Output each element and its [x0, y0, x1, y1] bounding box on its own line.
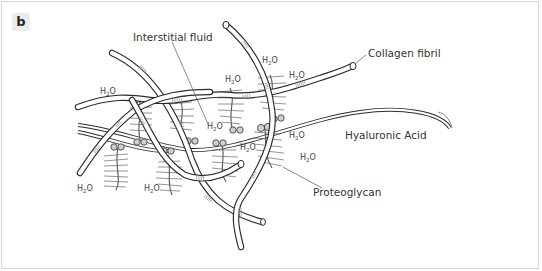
label-collagen-fibril: Collagen fibril: [368, 47, 441, 59]
proteoglycan-1: [104, 144, 128, 190]
h2o-label: H2O: [289, 71, 305, 81]
h2o-label: H2O: [289, 131, 305, 141]
label-interstitial-fluid: Interstitial fluid: [133, 31, 213, 43]
h2o-label: H2O: [262, 56, 278, 66]
h2o-label: H2O: [144, 184, 160, 194]
h2o-label: H2O: [300, 153, 316, 163]
h2o-label: H2O: [77, 184, 93, 194]
label-hyaluronic-acid: Hyaluronic Acid: [345, 129, 427, 141]
h2o-label: H2O: [240, 143, 256, 153]
h2o-label: H2O: [207, 122, 223, 132]
ecm-diagram: Interstitial fluid Collagen fibril Hyalu…: [0, 0, 542, 271]
label-proteoglycan: Proteoglycan: [313, 186, 381, 198]
h2o-label: H2O: [225, 75, 241, 85]
leader-lines: [172, 42, 452, 188]
h2o-label: H2O: [100, 87, 116, 97]
